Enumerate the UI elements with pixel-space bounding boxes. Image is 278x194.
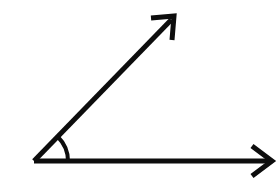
angle-diagram-canvas <box>0 0 278 194</box>
angle-diagram-svg <box>0 0 278 194</box>
diagram-background <box>0 0 278 194</box>
